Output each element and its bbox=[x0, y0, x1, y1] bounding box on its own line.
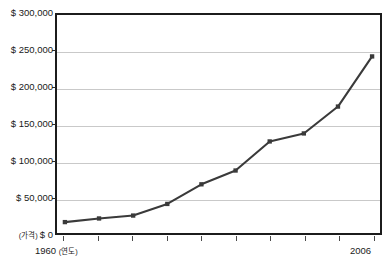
x-tick-mark-3 bbox=[167, 236, 168, 241]
data-point-marker bbox=[97, 216, 101, 220]
data-point-marker bbox=[63, 220, 67, 224]
series-line-group bbox=[57, 15, 380, 233]
x-tick-mark-1 bbox=[98, 236, 99, 241]
y-tick-mark-150000 bbox=[52, 124, 56, 125]
y-tick-mark-250000 bbox=[52, 50, 56, 51]
y-tick-mark-200000 bbox=[52, 87, 56, 88]
series-markers bbox=[63, 54, 375, 224]
data-point-marker bbox=[131, 213, 135, 217]
y-tick-mark-100000 bbox=[52, 161, 56, 162]
x-tick-label-last: 2006 bbox=[350, 245, 371, 256]
y-tick-label-300000: $ 300,000 bbox=[0, 8, 53, 18]
clipped-top-caption: · · · · · · ·· · · · · bbox=[243, 0, 391, 3]
y-tick-label-250000: $ 250,000 bbox=[0, 45, 53, 55]
series-polyline bbox=[65, 56, 372, 222]
data-point-marker bbox=[370, 54, 374, 58]
plot-area bbox=[55, 13, 382, 235]
x-tick-mark-6 bbox=[270, 236, 271, 241]
data-point-marker bbox=[199, 182, 203, 186]
x-tick-mark-2 bbox=[132, 236, 133, 241]
x-tick-label-first: 1960 (연도) bbox=[35, 245, 78, 257]
data-point-marker bbox=[336, 104, 340, 108]
x-tick-mark-4 bbox=[201, 236, 202, 241]
y-tick-label-200000: $ 200,000 bbox=[0, 82, 53, 92]
y-tick-label-150000: $ 150,000 bbox=[0, 119, 53, 129]
y-tick-value: $ 0 bbox=[40, 229, 53, 240]
y-tick-label-0: (가격) $ 0 bbox=[0, 230, 53, 241]
y-axis-unit-note: (가격) bbox=[19, 231, 40, 240]
price-trend-line-chart: · · · · · · ·· · · · · (가격) $ 0$ 50,000$… bbox=[0, 0, 391, 264]
y-tick-label-100000: $ 100,000 bbox=[0, 156, 53, 166]
y-tick-label-50000: $ 50,000 bbox=[0, 193, 53, 203]
x-tick-mark-7 bbox=[305, 236, 306, 241]
y-tick-mark-50000 bbox=[52, 198, 56, 199]
x-tick-mark-0 bbox=[63, 236, 64, 241]
data-point-marker bbox=[233, 168, 237, 172]
x-tick-mark-8 bbox=[339, 236, 340, 241]
x-tick-mark-9 bbox=[374, 236, 375, 241]
data-point-marker bbox=[268, 139, 272, 143]
data-point-marker bbox=[165, 202, 169, 206]
x-tick-mark-5 bbox=[236, 236, 237, 241]
x-first-year: 1960 bbox=[35, 245, 59, 256]
data-point-marker bbox=[302, 131, 306, 135]
x-axis-unit-note: (연도) bbox=[59, 247, 78, 256]
